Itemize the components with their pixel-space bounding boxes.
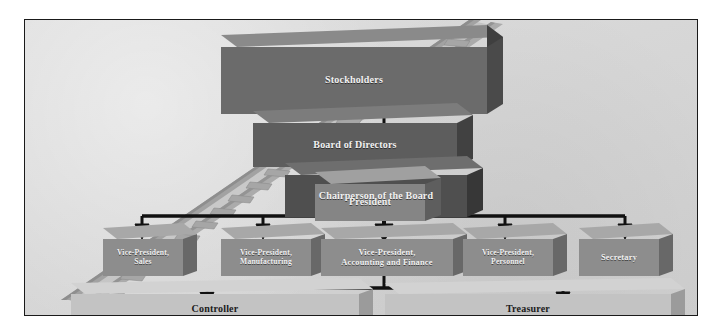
node-secretary-label: Secretary: [597, 253, 641, 262]
node-treasurer-label-line2: ( Finance Officer): [484, 315, 572, 316]
node-treasurer[interactable]: Treasurer ( Finance Officer): [385, 294, 671, 316]
node-vp-accounting-finance-label-line2: Accounting and Finance: [337, 258, 436, 267]
node-vp-personnel-label-line2: Personnel: [487, 258, 529, 266]
node-board-of-directors[interactable]: Board of Directors: [253, 123, 457, 167]
node-vp-accounting-finance[interactable]: Vice-President, Accounting and Finance: [321, 239, 453, 276]
node-vp-accounting-finance-label-line1: Vice-President,: [354, 248, 419, 257]
node-stockholders-label: Stockholders: [321, 75, 387, 86]
node-vp-sales[interactable]: Vice-President, Sales: [103, 239, 183, 276]
node-vp-manufacturing[interactable]: Vice-President, Manufacturing: [221, 239, 311, 276]
node-controller-label-line2: ( Accounting Officer): [164, 315, 267, 316]
node-vp-manufacturing-label-line2: Manufacturing: [236, 258, 296, 266]
node-vp-personnel[interactable]: Vice-President, Personnel: [463, 239, 553, 276]
node-board-of-directors-label: Board of Directors: [309, 140, 400, 151]
org-chart-image: Stockholders Board of Directors Chairper…: [0, 0, 720, 334]
node-stockholders-label-wrap[interactable]: Stockholders: [221, 47, 487, 114]
node-controller[interactable]: Controller ( Accounting Officer): [71, 294, 359, 316]
node-president[interactable]: President: [315, 184, 425, 221]
chart-frame: Stockholders Board of Directors Chairper…: [24, 19, 698, 316]
node-president-label: President: [345, 197, 395, 208]
node-vp-sales-label-line2: Sales: [130, 258, 155, 266]
node-secretary[interactable]: Secretary: [579, 239, 659, 276]
